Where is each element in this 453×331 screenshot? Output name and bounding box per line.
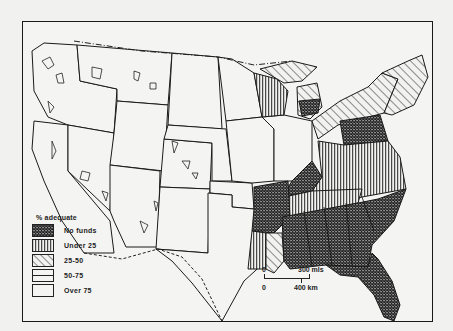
region-pennsylvania [340,115,388,145]
scale-bar: 0 300 mls 0 400 km [262,266,332,306]
swatch-split [32,269,54,282]
legend-item-under-25: Under 25 [32,238,122,253]
legend-label: 50-75 [64,272,83,279]
scale-tick [301,278,302,283]
scale-miles-label: 300 mls [298,266,324,273]
region-dakotas [168,53,222,129]
legend-label: 25-50 [64,257,83,264]
legend-item-over-75: Over 75 [32,283,122,298]
legend-label: Over 75 [64,287,92,294]
scale-zero-km: 0 [262,284,266,291]
scale-zero-miles: 0 [262,266,266,273]
legend-item-50-75: 50-75 [32,268,122,283]
swatch-vertical [32,239,54,252]
swatch-crosshatch [32,224,54,237]
legend-label: No funds [64,227,97,234]
scale-line [264,278,310,279]
legend-item-25-50: 25-50 [32,253,122,268]
swatch-diagonal [32,254,54,267]
region-michigan-southern [299,99,320,116]
scale-tick [264,274,265,279]
scale-tick [309,274,310,279]
map-legend: % adequate No funds Under 25 25-50 50-75 [32,214,122,298]
region-iowa-missouri [226,117,274,183]
legend-label: Under 25 [64,242,96,249]
region-colorado [160,139,212,189]
legend-item-no-funds: No funds [32,223,122,238]
region-new-mexico [156,187,210,253]
region-minnesota [218,57,262,121]
region-wyoming-utah [110,101,168,171]
scale-km-label: 400 km [294,284,318,291]
legend-title: % adequate [36,214,122,221]
swatch-blank [32,284,54,297]
